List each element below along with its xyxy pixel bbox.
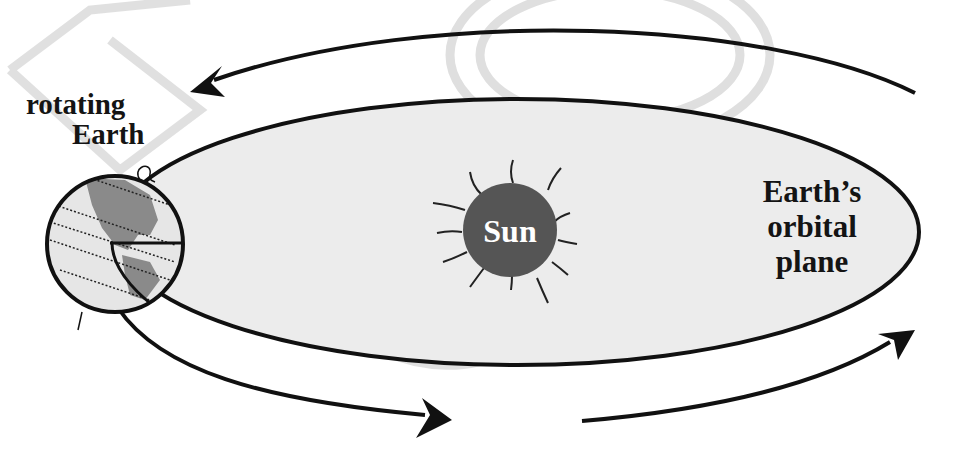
label-plane: plane: [776, 244, 848, 279]
arrowhead-icon: [190, 66, 225, 97]
label-rotating: rotating: [26, 88, 126, 120]
top-arrow: [190, 31, 915, 97]
label-orbital: orbital: [767, 209, 857, 244]
orbit-diagram: Sun rotating Earth Earth’s orbital pla: [0, 0, 958, 472]
arrowhead-icon: [416, 398, 452, 438]
label-earths: Earth’s: [763, 174, 862, 209]
sun-label: Sun: [483, 213, 537, 249]
label-earth: Earth: [72, 118, 145, 150]
